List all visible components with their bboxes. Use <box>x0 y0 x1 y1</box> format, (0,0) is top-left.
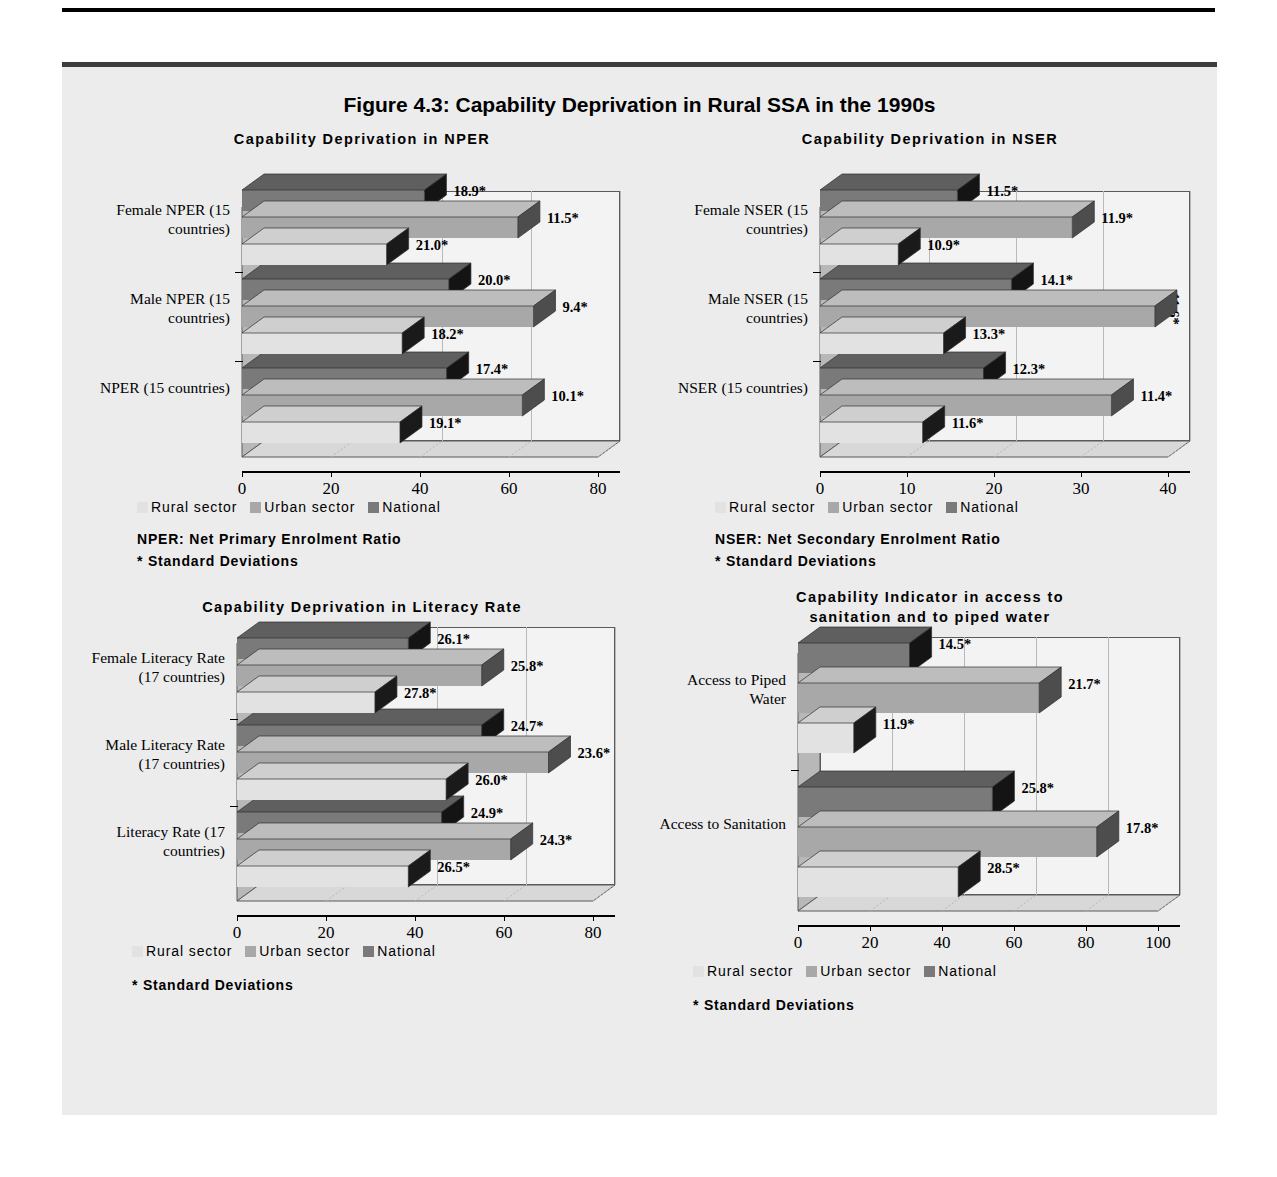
bar-3d <box>237 779 446 800</box>
chart-legend: Rural sectorUrban sectorNational <box>132 943 449 959</box>
bar-value-label: 14.5* <box>939 636 972 653</box>
x-axis-line <box>820 471 1190 473</box>
legend-swatch-rural <box>132 946 143 957</box>
x-axis-tick-label: 20 <box>306 479 356 499</box>
x-axis-tick <box>798 925 799 931</box>
x-axis-tick <box>870 925 871 931</box>
x-axis-tick <box>509 471 510 477</box>
x-axis-tick-label: 0 <box>212 923 262 943</box>
chart-sanitation: 020406080100Access to Sanitation28.5*17.… <box>650 645 1210 1065</box>
legend-swatch-national <box>363 946 374 957</box>
bar-3d-shading <box>237 763 472 804</box>
bar-value-label: 24.3* <box>540 832 573 849</box>
gridline-vertical <box>615 627 616 885</box>
legend-item-rural: Rural sector <box>132 943 232 959</box>
bar-3d-shading <box>237 676 401 717</box>
x-axis-line <box>237 915 615 917</box>
bar-facet <box>798 627 932 643</box>
legend-label-national: National <box>382 499 441 515</box>
panel-nser-title: Capability Deprivation in NSER <box>650 129 1210 149</box>
category-axis-label: Female NSER (15 countries) <box>658 200 808 238</box>
legend-label-urban: Urban sector <box>842 499 933 515</box>
bar-facet <box>798 771 1014 787</box>
x-axis-tick-label: 60 <box>484 479 534 499</box>
legend-swatch-rural <box>137 502 148 513</box>
x-axis-tick-label: 80 <box>1061 933 1111 953</box>
x-axis-tick-label: 0 <box>217 479 267 499</box>
bar-value-label: 21.7* <box>1068 676 1101 693</box>
bar-facet <box>237 850 430 866</box>
gridline-vertical <box>1190 191 1191 441</box>
legend-swatch-urban <box>828 502 839 513</box>
category-axis-label: Female Literacy Rate (17 countries) <box>90 648 225 686</box>
chart-legend: Rural sectorUrban sectorNational <box>693 963 1010 979</box>
legend-item-national: National <box>924 963 997 979</box>
panel-nper-title: Capability Deprivation in NPER <box>82 129 642 149</box>
chart-note: * Standard Deviations <box>137 553 299 569</box>
legend-label-national: National <box>377 943 436 959</box>
chart-note: * Standard Deviations <box>715 553 877 569</box>
bar-3d <box>820 244 898 265</box>
bar-facet <box>798 667 1061 683</box>
bar-value-label: 9.4* <box>562 299 587 316</box>
x-axis-tick <box>1168 471 1169 477</box>
chart-note: * Standard Deviations <box>693 997 855 1013</box>
bar-facet <box>798 811 1119 827</box>
legend-label-national: National <box>938 963 997 979</box>
bar-3d <box>237 866 408 887</box>
x-axis-tick-label: 80 <box>568 923 618 943</box>
bar-3d-shading <box>798 851 984 901</box>
x-axis-tick <box>907 471 908 477</box>
category-axis-label: Female NPER (15 countries) <box>90 200 230 238</box>
bar-facet <box>820 290 1177 306</box>
category-axis-label: Male NSER (15 countries) <box>658 289 808 327</box>
x-axis-tick-label: 80 <box>573 479 623 499</box>
bar-value-label: 25.8* <box>511 658 544 675</box>
legend-label-rural: Rural sector <box>151 499 237 515</box>
legend-item-rural: Rural sector <box>137 499 237 515</box>
bar-3d-shading <box>237 850 434 891</box>
bar-facet <box>820 201 1094 217</box>
category-axis-label: Male NPER (15 countries) <box>90 289 230 327</box>
x-axis-tick-label: 40 <box>390 923 440 943</box>
bar-3d <box>242 244 387 265</box>
x-axis-tick-label: 20 <box>969 479 1019 499</box>
legend-swatch-urban <box>806 966 817 977</box>
bar-3d <box>237 692 375 713</box>
category-axis-label: Access to Piped Water <box>658 670 786 708</box>
bar-facet <box>242 406 422 422</box>
bar-value-label: 12.3* <box>1013 361 1046 378</box>
category-axis-label: NSER (15 countries) <box>658 378 808 397</box>
panel-nser: Capability Deprivation in NSER 010203040… <box>650 129 1210 559</box>
bar-value-label: 11.4* <box>1140 388 1172 405</box>
x-axis-tick-label: 60 <box>479 923 529 943</box>
chart-note: NSER: Net Secondary Enrolment Ratio <box>715 531 1001 547</box>
bar-3d <box>820 333 944 354</box>
bar-value-label: 23.6* <box>578 745 611 762</box>
legend-swatch-urban <box>250 502 261 513</box>
bar-value-label: 10.1* <box>551 388 584 405</box>
bar-facet <box>242 174 446 190</box>
bar-value-label: 11.9* <box>1101 210 1133 227</box>
legend-item-urban: Urban sector <box>828 499 933 515</box>
x-axis-tick <box>1158 925 1159 931</box>
bar-3d <box>798 867 958 897</box>
legend-label-urban: Urban sector <box>820 963 911 979</box>
legend-label-rural: Rural sector <box>146 943 232 959</box>
gridline-vertical <box>1180 637 1181 895</box>
x-axis-tick <box>598 471 599 477</box>
x-axis-tick <box>415 915 416 921</box>
x-axis-tick-label: 20 <box>301 923 351 943</box>
panel-literacy-title: Capability Deprivation in Literacy Rate <box>82 597 642 617</box>
chart-legend: Rural sectorUrban sectorNational <box>715 499 1032 515</box>
bar-value-label: 28.5* <box>987 860 1020 877</box>
figure-title: Figure 4.3: Capability Deprivation in Ru… <box>62 93 1217 117</box>
bar-facet <box>820 174 979 190</box>
x-axis-tick-label: 40 <box>1143 479 1193 499</box>
panel-sanitation-title: Capability Indicator in access to sanita… <box>650 587 1210 627</box>
bar-facet <box>242 201 540 217</box>
bar-value-label: 14.1* <box>1040 272 1073 289</box>
legend-label-national: National <box>960 499 1019 515</box>
x-axis-tick <box>942 925 943 931</box>
x-axis-tick <box>504 915 505 921</box>
